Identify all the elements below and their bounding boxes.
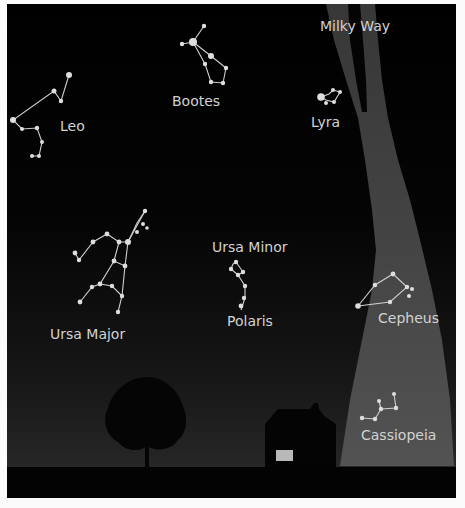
label-milky-way: Milky Way	[320, 18, 390, 34]
label-bootes: Bootes	[172, 93, 220, 109]
label-polaris: Polaris	[227, 313, 273, 329]
label-cepheus: Cepheus	[378, 310, 439, 326]
label-ursa-minor: Ursa Minor	[212, 239, 288, 255]
label-lyra: Lyra	[311, 114, 340, 130]
house-window	[276, 450, 293, 461]
label-leo: Leo	[60, 118, 85, 134]
label-cassiopeia: Cassiopeia	[361, 427, 436, 443]
ground-strip	[7, 467, 456, 498]
night-sky-diagram: Leo Bootes Lyra Milky Way	[7, 4, 456, 498]
label-ursa-major: Ursa Major	[50, 326, 125, 342]
